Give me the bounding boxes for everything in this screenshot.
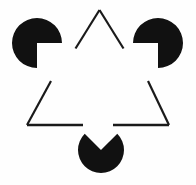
kanizsa-figure-stage xyxy=(0,0,196,185)
kanizsa-triangle-illustration xyxy=(0,0,196,185)
